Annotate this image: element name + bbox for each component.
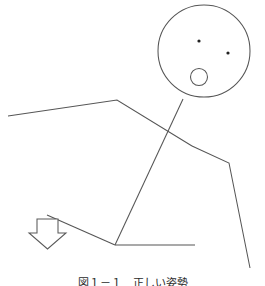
figure-caption: 図１－１ 正しい姿勢	[0, 277, 265, 286]
mouth-circle	[191, 69, 208, 86]
head-circle	[158, 5, 250, 97]
torso-line	[115, 99, 183, 245]
line-drawing-svg	[0, 0, 265, 286]
left-eye-dot	[197, 39, 200, 42]
figure-canvas: 図１－１ 正しい姿勢	[0, 0, 265, 286]
down-arrow-icon	[29, 219, 66, 249]
right-arm-polyline	[192, 146, 250, 268]
right-eye-dot	[226, 51, 229, 54]
